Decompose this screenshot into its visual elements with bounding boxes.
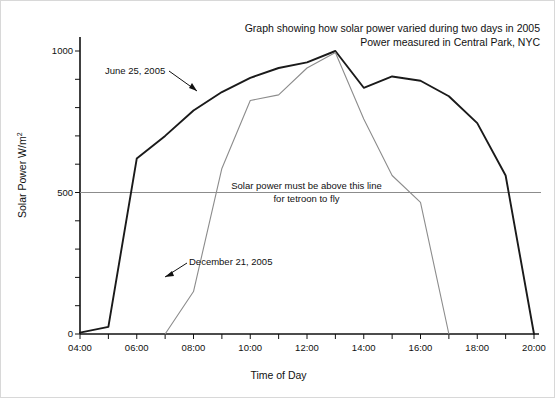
x-tick-label: 06:00 xyxy=(115,342,159,353)
x-axis-title: Time of Day xyxy=(1,369,555,381)
y-tick-label: 1000 xyxy=(33,45,73,56)
x-tick-label: 08:00 xyxy=(172,342,216,353)
y-axis-title-exponent: 2 xyxy=(16,132,23,136)
x-tick-label: 04:00 xyxy=(58,342,102,353)
x-tick-label: 18:00 xyxy=(455,342,499,353)
chart-page: Graph showing how solar power varied dur… xyxy=(0,0,555,398)
y-tick-label: 500 xyxy=(33,187,73,198)
annotation-december-label: December 21, 2005 xyxy=(189,256,272,267)
x-tick-label: 10:00 xyxy=(228,342,272,353)
annotation-arrowhead-june xyxy=(189,83,197,91)
y-axis-title-text: Solar Power W/m xyxy=(16,136,28,218)
y-tick-label: 0 xyxy=(33,328,73,339)
chart-subtitle: Power measured in Central Park, NYC xyxy=(215,35,540,49)
chart-title: Graph showing how solar power varied dur… xyxy=(215,21,540,35)
threshold-annotation-line1: Solar power must be above this line xyxy=(197,179,416,192)
annotation-june-label: June 25, 2005 xyxy=(105,65,165,76)
x-tick-label: 12:00 xyxy=(285,342,329,353)
x-tick-label: 16:00 xyxy=(399,342,443,353)
x-tick-label: 20:00 xyxy=(512,342,555,353)
x-tick-label: 14:00 xyxy=(342,342,386,353)
y-axis-title: Solar Power W/m2 xyxy=(16,90,29,260)
threshold-annotation: Solar power must be above this line for … xyxy=(197,179,416,205)
threshold-annotation-line2: for tetroon to fly xyxy=(197,192,416,205)
